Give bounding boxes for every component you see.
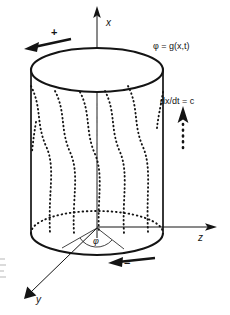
y-axis (24, 228, 97, 299)
figure-canvas: x z y φ = g(x,t) dx/dt = c + − φ (0, 0, 230, 315)
z-axis-label: z (198, 233, 203, 243)
y-axis-label: y (36, 295, 41, 305)
x-axis-label: x (106, 18, 111, 28)
wave-curve (31, 86, 51, 233)
phi-angle-label: φ (93, 237, 99, 246)
wave-curve (55, 91, 75, 233)
page-edge-artifact (0, 258, 7, 284)
field-equation-label: φ = g(x,t) (153, 42, 190, 51)
speed-equation-label: dx/dt = c (160, 97, 194, 106)
speed-arrow (178, 106, 189, 148)
bottom-rotation-arrow (108, 257, 155, 267)
cylinder-diagram (0, 0, 230, 315)
positive-sign-label: + (51, 27, 57, 38)
cylinder-top-ellipse (31, 48, 163, 92)
wave-curve (32, 122, 36, 152)
negative-sign-label: − (124, 258, 130, 269)
wave-curve (128, 86, 148, 232)
